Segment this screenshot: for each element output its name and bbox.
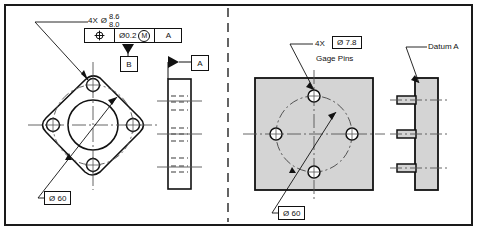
primary-datum-letter: A bbox=[166, 31, 171, 40]
hole-diameter-symbol: Ø bbox=[101, 16, 107, 25]
feature-control-frame: Ø0.2 M A bbox=[84, 28, 182, 43]
hole-quantity-label: 4X bbox=[88, 16, 98, 25]
tolerance-value-cell: Ø0.2 M bbox=[115, 29, 155, 42]
gage-pin-quantity-label: 4X bbox=[315, 40, 325, 48]
datum-a-letter: A bbox=[197, 59, 202, 68]
gage-pin-diameter-box: Ø 7.8 bbox=[332, 36, 362, 49]
position-symbol-cell bbox=[85, 29, 115, 42]
datum-a-symbol-left bbox=[168, 56, 191, 79]
position-symbol-icon bbox=[94, 30, 105, 41]
tolerance-value: Ø0.2 bbox=[119, 31, 136, 40]
left-bolt-circle-dimension: Ø 60 bbox=[44, 191, 71, 205]
primary-datum-cell: A bbox=[155, 29, 181, 42]
right-bolt-circle-value: Ø 60 bbox=[283, 209, 300, 218]
left-front-view bbox=[28, 22, 158, 198]
right-front-view bbox=[243, 44, 385, 213]
datum-feature-a-box: A bbox=[191, 55, 209, 71]
datum-b-letter: B bbox=[126, 60, 131, 69]
drawing-page: 4X Ø 8.6 8.0 Ø0.2 M A B A Ø 60 bbox=[0, 0, 477, 230]
datum-a-triangle bbox=[168, 56, 179, 68]
datum-a-text-label: Datum A bbox=[428, 43, 459, 51]
right-side-view bbox=[390, 47, 450, 190]
left-side-view bbox=[157, 79, 202, 189]
gage-pin-diameter-value: Ø 7.8 bbox=[337, 38, 357, 47]
technical-drawing-canvas bbox=[0, 0, 477, 230]
mmc-modifier-symbol: M bbox=[138, 30, 150, 42]
gage-pins-description: Gage Pins bbox=[316, 55, 353, 63]
datum-feature-b-box: B bbox=[120, 56, 138, 72]
hole-size-callout: 4X Ø 8.6 8.0 bbox=[88, 13, 119, 29]
datum-b-triangle bbox=[122, 44, 134, 54]
datum-b-symbol bbox=[122, 44, 134, 56]
hole-callout-leader bbox=[35, 22, 88, 80]
right-bolt-circle-dimension: Ø 60 bbox=[278, 206, 305, 220]
left-bolt-circle-value: Ø 60 bbox=[49, 194, 66, 203]
